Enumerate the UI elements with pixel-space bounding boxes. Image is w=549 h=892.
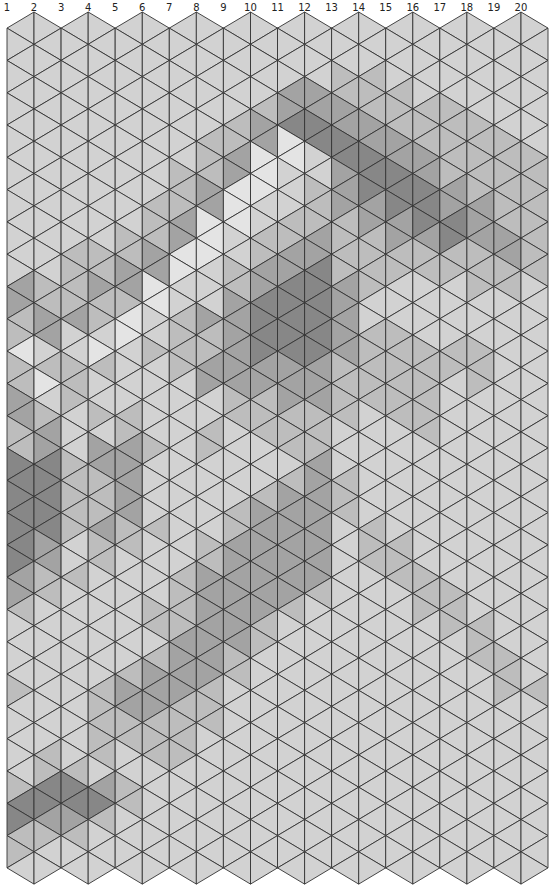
triangle-grid (0, 0, 549, 892)
